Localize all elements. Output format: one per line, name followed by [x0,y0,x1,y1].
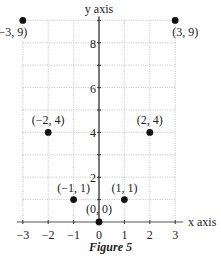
data-point [172,17,179,24]
point-label: (0, 0) [86,202,112,216]
point-label: (−3, 9) [0,25,27,39]
y-axis-label: y axis [85,2,114,16]
data-point [146,129,153,136]
y-tick-label: 6 [90,82,96,96]
data-point [70,196,77,203]
point-label: (−1, 1) [57,181,90,195]
x-axis-label: x axis [188,215,217,229]
y-tick-label: 2 [90,171,96,185]
point-label: (3, 9) [172,25,198,39]
y-tick-label: 8 [90,37,96,51]
data-point [19,17,26,24]
point-label: (−2, 4) [32,113,65,127]
data-point [96,219,103,226]
data-point [45,129,52,136]
scatter-plot: −3−2−101232468 (−3, 9)(−2, 4)(−1, 1)(0, … [0,0,221,275]
point-label: (1, 1) [111,181,137,195]
data-point [121,196,128,203]
y-tick-label: 4 [90,126,96,140]
figure-caption: Figure 5 [0,240,221,255]
point-label: (2, 4) [137,113,163,127]
